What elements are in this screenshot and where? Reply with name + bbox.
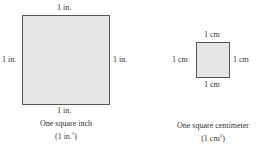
square-centimeter-left-label: 1 cm <box>172 56 188 64</box>
square-centimeter-right-label: 1 cm <box>233 56 249 64</box>
square-inch-caption: One square inch (1 in.2) <box>26 119 106 142</box>
square-centimeter-shape <box>196 42 230 78</box>
square-centimeter-caption-title: One square centimeter <box>168 121 256 131</box>
square-inch-bottom-label: 1 in. <box>57 107 71 115</box>
square-centimeter-caption: One square centimeter (1 cm2) <box>168 121 256 144</box>
square-inch-caption-title: One square inch <box>26 119 106 129</box>
square-centimeter-top-label: 1 cm <box>204 31 220 39</box>
square-inch-left-label: 1 in. <box>2 56 16 64</box>
square-inch-shape <box>22 15 110 105</box>
square-centimeter-caption-unit: (1 cm2) <box>168 131 256 144</box>
square-centimeter-bottom-label: 1 cm <box>204 81 220 89</box>
square-inch-top-label: 1 in. <box>57 4 71 12</box>
square-inch-right-label: 1 in. <box>113 56 127 64</box>
square-inch-caption-unit: (1 in.2) <box>26 129 106 142</box>
